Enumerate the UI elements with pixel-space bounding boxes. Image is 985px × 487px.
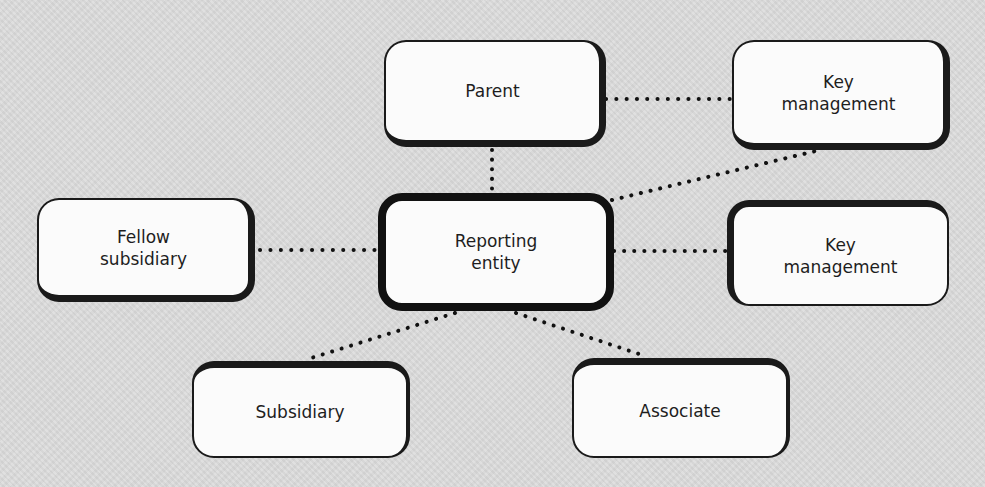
edge-reporting-entity-key-management-top [612,150,820,200]
node-subsidiary: Subsidiary [192,361,410,458]
node-key-management-right: Key management [727,200,949,306]
node-reporting-entity-label: Reporting entity [455,230,538,274]
node-key-management-right-label: Key management [784,234,898,278]
node-parent-label: Parent [465,80,519,102]
node-fellow-subsidiary: Fellow subsidiary [37,198,255,302]
edge-reporting-entity-subsidiary [305,313,455,360]
node-key-management-top-label: Key management [782,71,896,115]
node-fellow-subsidiary-label: Fellow subsidiary [100,226,187,270]
node-key-management-top: Key management [732,40,950,150]
edge-reporting-entity-associate [516,313,645,356]
node-parent: Parent [384,40,606,147]
node-associate: Associate [572,358,790,458]
node-reporting-entity: Reporting entity [378,193,614,311]
node-associate-label: Associate [639,400,720,422]
node-subsidiary-label: Subsidiary [256,401,345,423]
